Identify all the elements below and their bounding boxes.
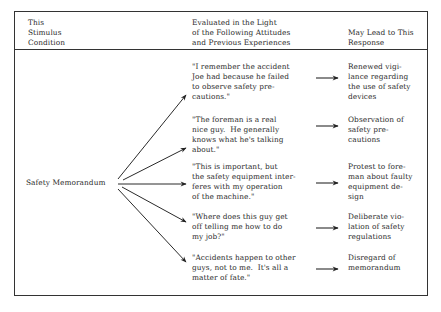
arrow-to-attitude-1	[118, 95, 186, 179]
arrow-to-attitude-2	[123, 148, 186, 180]
arrow-to-attitude-5	[118, 189, 186, 262]
arrows-layer	[0, 0, 441, 312]
arrow-to-attitude-4	[122, 187, 186, 222]
